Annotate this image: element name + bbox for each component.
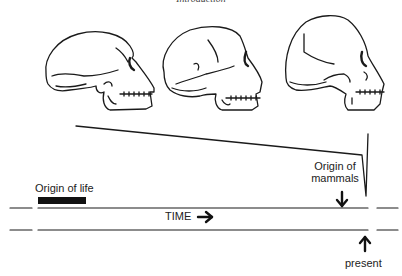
arrow-down-icon [337,192,347,206]
origin-of-mammals-label: Origin of mammals [307,160,363,184]
arrow-right-icon [198,212,212,222]
arrow-up-icon [360,237,370,251]
evolution-timeline-diagram [0,0,402,276]
origin-of-mammals-label-line2: mammals [307,172,363,184]
origin-of-life-bar [38,197,86,204]
skull-early-hominin-icon [46,32,154,110]
time-axis-label: TIME [165,210,191,222]
origin-of-mammals-label-line1: Origin of [307,160,363,172]
skull-archaic-human-icon [163,27,262,110]
present-label: present [345,257,382,269]
skull-modern-human-icon [286,16,384,110]
origin-of-life-label: Origin of life [35,182,94,194]
